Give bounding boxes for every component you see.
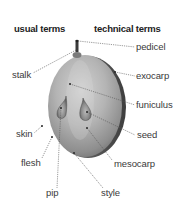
- label-exocarp: exocarp: [136, 71, 169, 81]
- label-funiculus: funiculus: [136, 100, 173, 110]
- leader-skin: [34, 126, 42, 133]
- heading-usual-terms: usual terms: [14, 24, 65, 34]
- leader-exocarp: [115, 72, 135, 76]
- label-seed: seed: [137, 130, 157, 140]
- label-flesh: flesh: [21, 158, 41, 168]
- label-stalk: stalk: [12, 70, 31, 80]
- label-style: style: [101, 188, 120, 198]
- heading-technical-terms: technical terms: [94, 24, 161, 34]
- label-skin: skin: [16, 129, 33, 139]
- label-pedicel: pedicel: [136, 42, 165, 52]
- grape-anatomy-diagram: usual terms technical terms stalk skin f…: [0, 0, 179, 206]
- leader-style: [74, 153, 103, 188]
- label-pip: pip: [46, 188, 58, 198]
- leader-flesh: [42, 137, 52, 158]
- leader-pedicel: [78, 41, 135, 47]
- label-mesocarp: mesocarp: [114, 159, 155, 169]
